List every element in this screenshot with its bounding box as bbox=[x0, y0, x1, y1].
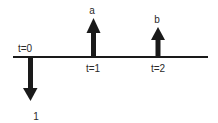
flow-label-t2: b bbox=[154, 14, 160, 25]
inflow-arrow-t2 bbox=[151, 27, 165, 57]
time-label-t1: t=1 bbox=[86, 63, 101, 74]
time-label-t2: t=2 bbox=[151, 63, 166, 74]
flow-label-t0: 1 bbox=[33, 111, 39, 122]
arrow-shaft bbox=[28, 57, 33, 89]
time-label-t0: t=0 bbox=[18, 43, 33, 54]
arrow-up-icon bbox=[151, 27, 165, 40]
arrow-up-icon bbox=[87, 18, 101, 33]
arrow-shaft bbox=[156, 39, 161, 57]
cash-flow-diagram: t=0 t=1 t=2 1 a b bbox=[0, 0, 218, 123]
outflow-arrow-t0 bbox=[23, 57, 38, 101]
arrow-shaft bbox=[91, 32, 96, 57]
flow-label-t1: a bbox=[89, 5, 95, 16]
inflow-arrow-t1 bbox=[87, 18, 101, 57]
arrow-down-icon bbox=[23, 88, 38, 101]
